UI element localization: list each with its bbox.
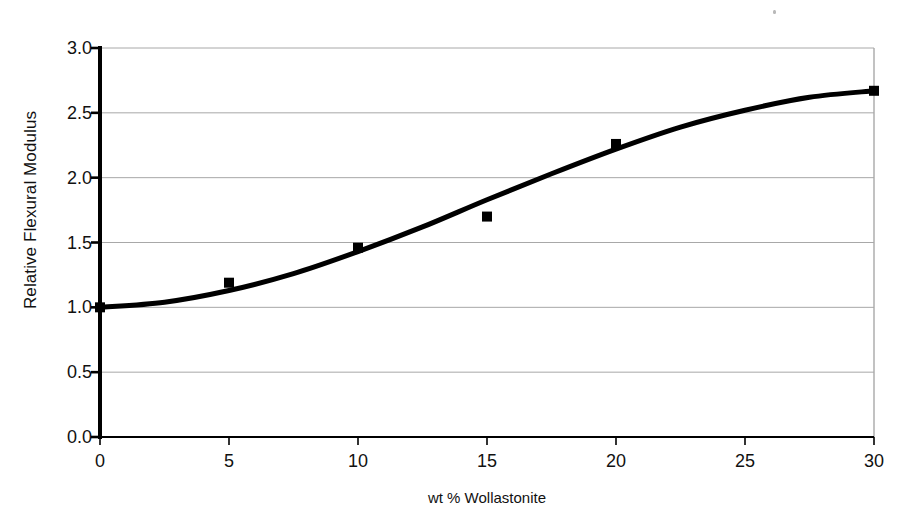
chart-container: Relative Flexural Modulus 0.00.51.01.52.… <box>0 0 912 529</box>
data-point-marker <box>611 139 621 149</box>
plot-area <box>0 0 912 529</box>
data-point-marker <box>95 302 105 312</box>
data-point-marker <box>869 86 879 96</box>
x-tick-marks <box>100 437 874 445</box>
data-point-marker <box>482 212 492 222</box>
fitted-curve-path <box>100 91 874 308</box>
data-point-marker <box>353 243 363 253</box>
fitted-curve <box>100 91 874 308</box>
scan-artifact-speck <box>773 10 776 14</box>
data-point-marker <box>224 278 234 288</box>
